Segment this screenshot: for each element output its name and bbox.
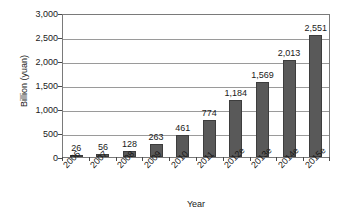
- y-axis-tick-label: 1,500: [24, 82, 58, 91]
- x-label-slot: 2008: [116, 158, 143, 198]
- y-axis-tickmark: [58, 38, 62, 39]
- y-axis-tickmark: [58, 134, 62, 135]
- y-axis-tickmark: [58, 14, 62, 15]
- y-axis-tick-label: 500: [24, 130, 58, 139]
- x-label-slot: 2009: [142, 158, 169, 198]
- x-axis-title: Year: [62, 199, 330, 209]
- x-label-slot: 2014e: [276, 158, 303, 198]
- y-axis-tickmarks: [62, 14, 330, 158]
- y-axis-tickmark: [58, 110, 62, 111]
- y-axis-tick-label: 2,000: [24, 58, 58, 67]
- x-label-slot: 2006: [62, 158, 89, 198]
- x-label-slot: 2011: [196, 158, 223, 198]
- y-axis-tick-label: 1,000: [24, 106, 58, 115]
- y-axis-tick-label: 3,000: [24, 10, 58, 19]
- y-axis-tick-label: 0: [24, 154, 58, 163]
- x-label-slot: 2012e: [223, 158, 250, 198]
- x-axis-tick-labels: 2006200720082009201020112012e2013e2014e2…: [62, 158, 330, 198]
- x-label-slot: 2010: [169, 158, 196, 198]
- y-axis-tickmark: [58, 62, 62, 63]
- y-axis-tickmark: [58, 86, 62, 87]
- x-label-slot: 2007: [89, 158, 116, 198]
- x-label-slot: 2015e: [303, 158, 330, 198]
- y-axis-tick-labels: 05001,0001,5002,0002,5003,000: [20, 0, 58, 220]
- bar-chart: Billion (yuan) 05001,0001,5002,0002,5003…: [0, 0, 344, 220]
- x-label-slot: 2013e: [250, 158, 277, 198]
- y-axis-tick-label: 2,500: [24, 34, 58, 43]
